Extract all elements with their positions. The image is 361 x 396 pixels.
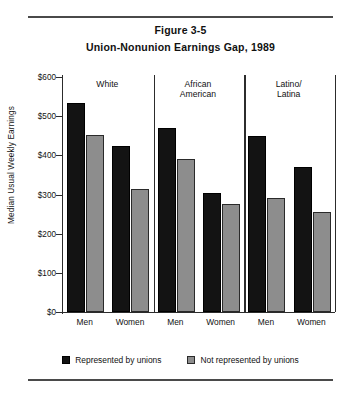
legend-swatch (62, 356, 70, 364)
group-separator (335, 75, 336, 312)
bar-union (158, 128, 176, 312)
top-divider-rule (28, 16, 333, 18)
y-tick-label: $100 (4, 268, 56, 277)
group-label: AfricanAmerican (153, 79, 244, 99)
bar-nonunion (222, 204, 240, 312)
bar-nonunion (177, 159, 195, 312)
bar-union (248, 136, 266, 312)
bar-union (112, 146, 130, 313)
group-separator (244, 75, 245, 312)
y-tick-label: $600 (4, 73, 56, 82)
legend-swatch (187, 356, 195, 364)
bar-nonunion (313, 212, 331, 312)
bar-union (203, 193, 221, 313)
bar-union (67, 103, 85, 313)
bar-union (294, 167, 312, 312)
legend-item: Represented by unions (62, 355, 161, 365)
legend-item: Not represented by unions (187, 355, 298, 365)
y-tick-label: $300 (4, 190, 56, 199)
legend-label: Represented by unions (75, 355, 161, 365)
y-tick-label: $400 (4, 151, 56, 160)
bottom-divider-rule (28, 379, 333, 381)
y-tick-label: $0 (4, 308, 56, 317)
group-label: Latino/Latina (243, 79, 334, 99)
x-tick-label: Men (62, 317, 107, 327)
x-tick-label: Women (289, 317, 334, 327)
chart-legend: Represented by unionsNot represented by … (0, 355, 361, 365)
bar-nonunion (131, 189, 149, 312)
bar-nonunion (86, 135, 104, 312)
bar-nonunion (267, 198, 285, 312)
x-tick-label: Women (198, 317, 243, 327)
y-tick-label: $500 (4, 112, 56, 121)
group-separator (154, 75, 155, 312)
group-label: White (62, 79, 153, 89)
legend-label: Not represented by unions (200, 355, 298, 365)
y-axis-labels: $600$500$400$300$200$100$0 (0, 0, 56, 396)
x-tick-label: Men (243, 317, 288, 327)
plot-area (62, 77, 334, 312)
x-axis-line (62, 312, 335, 313)
x-tick-label: Men (153, 317, 198, 327)
y-tick-label: $200 (4, 229, 56, 238)
x-tick-label: Women (107, 317, 152, 327)
